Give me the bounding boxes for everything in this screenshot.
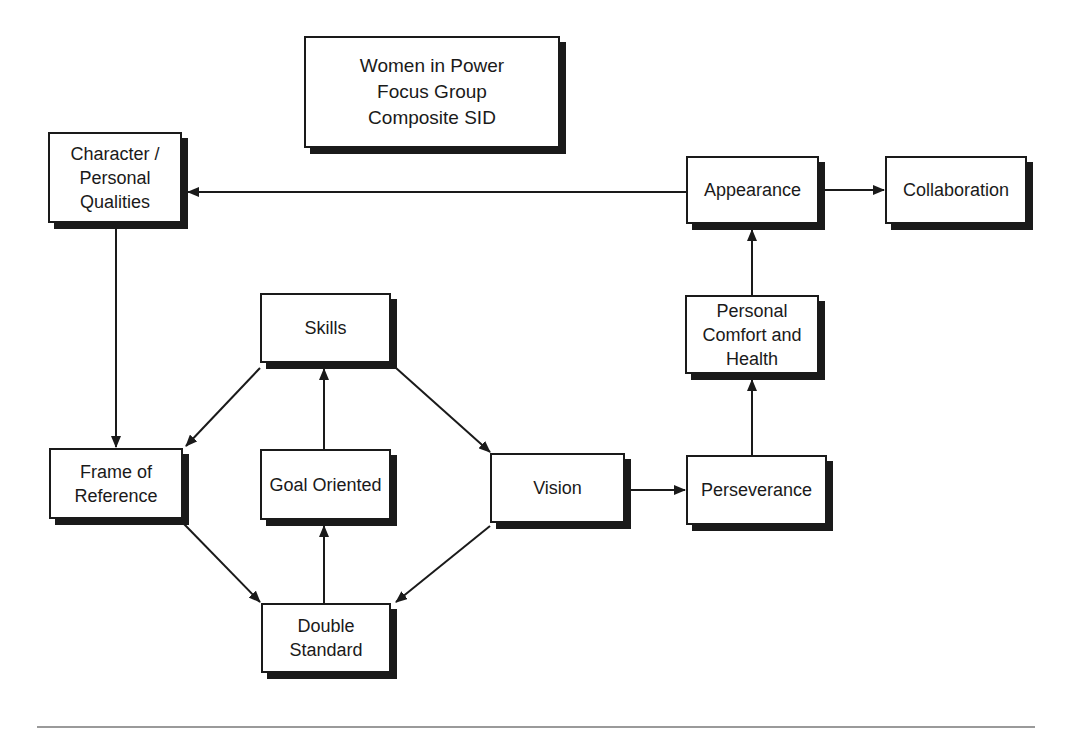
node-frame-of-reference: Frame of Reference (49, 448, 183, 519)
horizontal-rule (37, 726, 1035, 728)
node-character-personal-qualities: Character / Personal Qualities (48, 132, 182, 223)
node-perseverance: Perseverance (686, 455, 827, 525)
node-skills: Skills (260, 293, 391, 363)
node-double-standard: Double Standard (261, 603, 391, 673)
node-collaboration: Collaboration (885, 156, 1027, 224)
edge-skills-to-vision (396, 368, 490, 452)
node-appearance: Appearance (686, 156, 819, 224)
node-personal-comfort-health: Personal Comfort and Health (685, 295, 819, 374)
edge-skills-to-frame (186, 368, 260, 446)
edge-vision-to-double (396, 526, 490, 602)
node-goal-oriented: Goal Oriented (260, 449, 391, 520)
edge-frame-to-double (184, 524, 260, 602)
diagram-title-box: Women in Power Focus Group Composite SID (304, 36, 560, 148)
node-vision: Vision (490, 453, 625, 523)
